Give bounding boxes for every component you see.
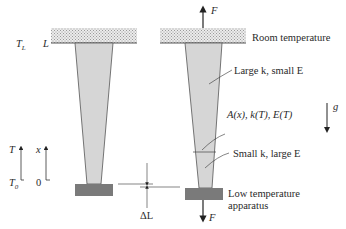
force-top-label: F	[210, 5, 218, 16]
tapered-rod-right	[185, 43, 222, 188]
upper-region-label: Large k, small E	[234, 65, 303, 76]
cross-section-label: A(x), k(T), E(T)	[226, 109, 293, 121]
force-bottom-label: F	[208, 212, 216, 223]
left-figure: TL L T T0 x 0 ΔL	[9, 28, 180, 221]
right-figure: F Room temperature F Large k, small E A(…	[160, 5, 338, 223]
lower-region-label: Small k, large E	[233, 148, 300, 159]
room-temperature-plate-left	[51, 28, 137, 43]
tapered-rod-left	[75, 43, 113, 184]
low-temperature-label-line1: Low temperature	[228, 188, 300, 199]
position-bottom-label: 0	[36, 177, 41, 188]
position-axis-label: x	[35, 144, 41, 155]
position-top-label: L	[42, 38, 49, 49]
elongation-dimension	[118, 163, 180, 208]
room-temperature-label: Room temperature	[252, 32, 331, 43]
elongation-label: ΔL	[140, 210, 153, 221]
tapered-rod-diagram: TL L T T0 x 0 ΔL F Room te	[0, 0, 346, 229]
gravity-label: g	[333, 101, 338, 112]
room-temperature-plate-right	[160, 28, 246, 43]
low-temperature-block	[185, 188, 223, 200]
position-axis-arrow-icon	[46, 148, 50, 180]
temperature-axis-label: T	[9, 144, 16, 155]
temperature-axis-arrow-icon	[21, 148, 24, 180]
temperature-top-label: TL	[16, 38, 26, 52]
low-temperature-label-line2: apparatus	[228, 200, 268, 211]
bottom-block-left	[75, 184, 113, 196]
temperature-bottom-label: T0	[9, 177, 19, 191]
